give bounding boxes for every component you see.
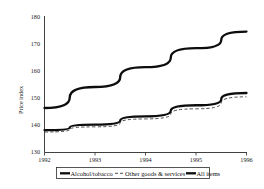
x-tick-label-1994: 1994	[139, 156, 151, 163]
legend-label-other-goods-services: Other goods & services	[125, 170, 186, 177]
y-tick-label-140: 140	[31, 121, 40, 128]
y-tick-label-160: 160	[31, 67, 40, 74]
y-axis-title: Price index	[17, 85, 24, 114]
y-tick-label-150: 150	[31, 94, 40, 101]
legend-label-all-items: All items	[197, 170, 221, 177]
y-tick-label-180: 180	[31, 13, 40, 20]
y-tick-label-170: 170	[31, 40, 40, 47]
x-tick-label-1995: 1995	[190, 156, 202, 163]
legend-label-alcohol-tobacco: Alcohol/tobacco	[71, 170, 113, 177]
series-line-other-goods-services	[45, 97, 247, 132]
series-line-alcohol-tobacco	[45, 32, 247, 108]
series-line-all-items	[45, 93, 247, 130]
y-tick-label-130: 130	[31, 148, 40, 155]
chart-figure: Price index 180 170 160 150 140 130 1992…	[0, 0, 264, 189]
x-tick-label-1992: 1992	[38, 156, 50, 163]
line-chart-canvas: Price index 180 170 160 150 140 130 1992…	[0, 0, 264, 189]
x-tick-label-1993: 1993	[89, 156, 101, 163]
x-tick-label-1996: 1996	[240, 156, 252, 163]
